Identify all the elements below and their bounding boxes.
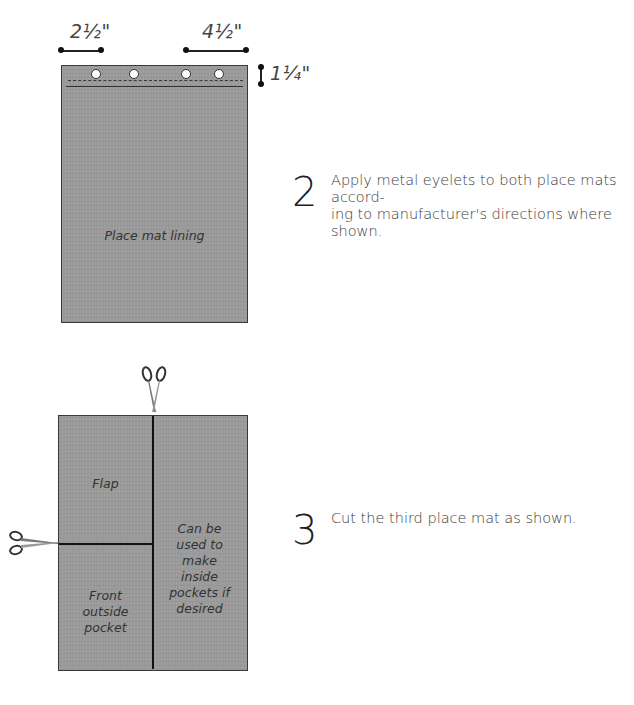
dimension-line-left: [61, 50, 101, 52]
stitch-line: [68, 80, 243, 81]
cut-line-horizontal: [59, 543, 153, 545]
section-label-front-pocket: Front outside pocket: [59, 588, 152, 636]
step-number: 2: [292, 172, 317, 212]
eyelet-icon: [214, 69, 224, 79]
scissors-icon: [8, 530, 58, 556]
dimension-endpoint: [258, 81, 264, 87]
third-place-mat: Flap Front outside pocket Can be used to…: [58, 415, 248, 671]
dimension-endpoint: [183, 47, 189, 53]
eyelet-icon: [129, 69, 139, 79]
scissors-icon: [141, 366, 167, 414]
dimension-label-hem: 1¼": [270, 62, 311, 84]
mat-label: Place mat lining: [62, 228, 247, 244]
step-text: Cut the third place mat as shown.: [331, 510, 631, 527]
section-label-inside-pockets: Can be used to make inside pockets if de…: [153, 521, 246, 617]
dimension-line-right: [186, 50, 246, 52]
section-label-flap: Flap: [59, 476, 152, 492]
step-number: 3: [292, 510, 317, 550]
dimension-endpoint: [258, 64, 264, 70]
dimension-label-right: 4½": [202, 20, 243, 42]
dimension-endpoint: [243, 47, 249, 53]
eyelet-icon: [181, 69, 191, 79]
place-mat-lining: Place mat lining: [61, 65, 248, 323]
dimension-endpoint: [98, 47, 104, 53]
step-text: Apply metal eyelets to both place mats a…: [331, 172, 631, 240]
eyelet-icon: [91, 69, 101, 79]
dimension-label-left: 2½": [70, 20, 111, 42]
dimension-endpoint: [58, 47, 64, 53]
